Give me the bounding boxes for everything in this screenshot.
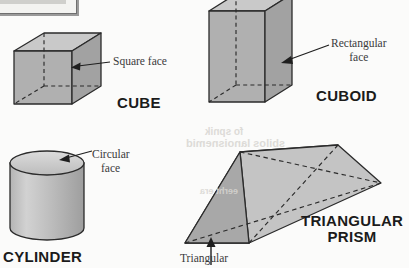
shape-name-line-1: TRIANGULAR <box>301 213 403 229</box>
callout-line-1: Triangular <box>180 252 228 266</box>
shape-name-cylinder: CYLINDER <box>3 249 82 265</box>
shape-name-cuboid: CUBOID <box>316 88 377 104</box>
shape-name-cube: CUBE <box>117 95 161 111</box>
callout-square-face: Square face <box>113 55 167 69</box>
cuboid-shape <box>209 0 292 102</box>
shapes-diagram-page: fo spnik sbilos lanoisnemid eerht era CU… <box>0 0 409 268</box>
bleed-through-text-2: sbilos lanoisnemid <box>186 137 285 149</box>
callout-rectangular-face: Rectangular face <box>331 37 387 64</box>
cube-shape <box>14 33 101 104</box>
callout-line-1: Square face <box>113 55 167 69</box>
callout-line-2: face <box>331 51 387 65</box>
callout-line-1: Rectangular <box>331 37 387 51</box>
callout-line-1: Circular <box>92 148 130 162</box>
callout-line-2: face <box>92 162 130 176</box>
callout-circular-face: Circular face <box>92 148 130 175</box>
callout-triangular-face: Triangular <box>180 252 228 266</box>
bleed-through-text-1: fo spnik <box>205 126 243 137</box>
clipped-text-box <box>0 0 77 14</box>
clipped-text-box-inner <box>0 0 66 4</box>
shape-name-triangular-prism: TRIANGULAR PRISM <box>301 213 403 245</box>
shape-name-line-2: PRISM <box>301 229 403 245</box>
cylinder-shape <box>10 151 84 240</box>
bleed-through-text-3: eerht era <box>200 186 238 196</box>
